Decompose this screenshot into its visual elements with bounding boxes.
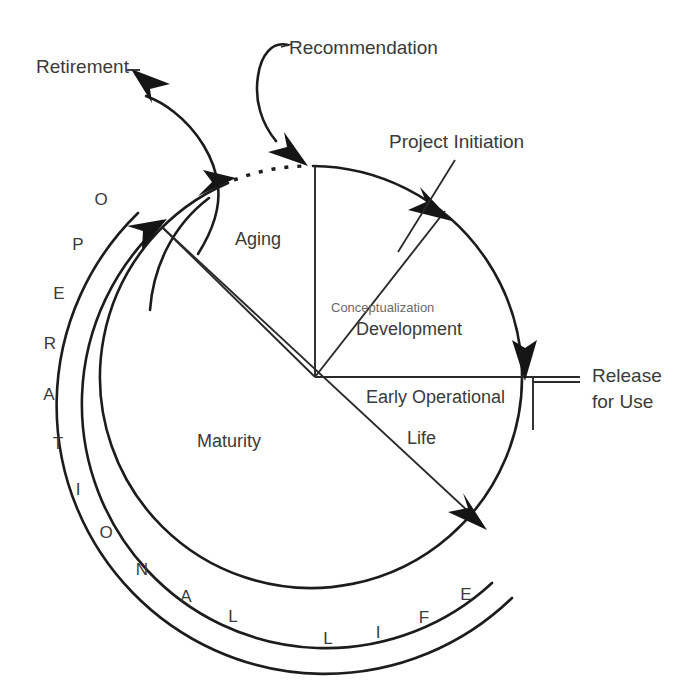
ring-letter: F xyxy=(419,608,429,627)
label-maturity: Maturity xyxy=(197,431,261,451)
label-aging: Aging xyxy=(235,229,281,249)
spoke-diagonal-ne xyxy=(315,211,445,377)
ring-letter: A xyxy=(180,587,192,606)
ring-letter: T xyxy=(53,434,63,453)
label-early-operational: Early Operational xyxy=(366,387,505,407)
spoke-diagonal-sw xyxy=(163,228,470,513)
label-recommendation: Recommendation xyxy=(289,37,438,58)
outer-ring-outer-arc xyxy=(57,213,512,674)
ring-letter: I xyxy=(76,480,81,499)
ring-letter: L xyxy=(228,607,237,626)
label-conceptualization: Conceptualization xyxy=(331,300,434,315)
ring-letter: I xyxy=(376,623,381,642)
ring-letter: P xyxy=(72,235,83,254)
label-retirement: Retirement xyxy=(36,56,130,77)
label-development: Development xyxy=(356,319,462,339)
ring-letter: R xyxy=(44,334,56,353)
aging-inner-arc xyxy=(150,198,209,310)
ring-letter: E xyxy=(460,585,471,604)
ring-letter: N xyxy=(136,560,148,579)
label-release-for-use-line2: for Use xyxy=(592,391,653,412)
recommendation-curve xyxy=(257,44,288,141)
ring-letter: L xyxy=(323,629,332,648)
lifecycle-diagram: Retirement Recommendation Project Initia… xyxy=(0,0,686,687)
lifecycle-svg-canvas: Retirement Recommendation Project Initia… xyxy=(0,0,686,687)
ring-letter: O xyxy=(99,523,112,542)
label-life: Life xyxy=(407,428,436,448)
retirement-arrowhead xyxy=(131,69,170,103)
dotted-gap-arc xyxy=(234,166,306,180)
label-project-initiation: Project Initiation xyxy=(389,131,524,152)
release-arrowhead xyxy=(512,340,537,381)
ring-letter: O xyxy=(94,190,107,209)
aging-arc-arrowhead xyxy=(198,170,236,196)
label-release-for-use-line1: Release xyxy=(592,365,662,386)
ring-letter: E xyxy=(53,284,64,303)
ring-letter: A xyxy=(43,385,55,404)
project-initiation-leader xyxy=(398,160,455,252)
